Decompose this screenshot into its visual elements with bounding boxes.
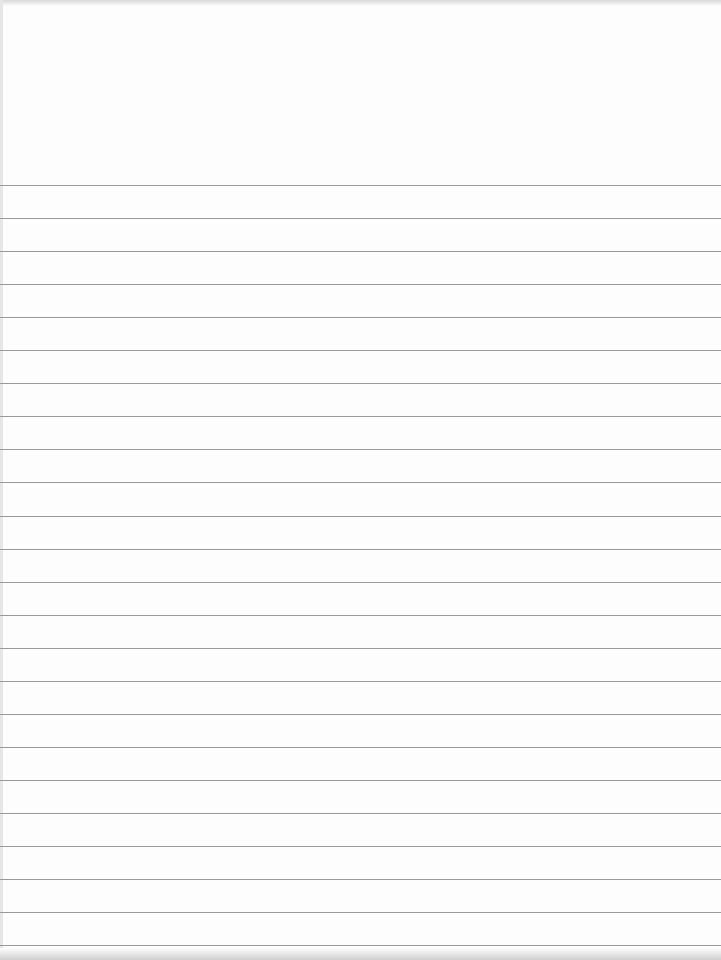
ruled-line (0, 482, 721, 483)
ruled-line (0, 317, 721, 318)
ruled-line (0, 251, 721, 252)
ruled-line (0, 549, 721, 550)
ruled-line (0, 582, 721, 583)
ruled-line (0, 813, 721, 814)
ruled-line (0, 350, 721, 351)
ruled-line (0, 218, 721, 219)
ruled-line (0, 879, 721, 880)
scan-edge-bottom (0, 948, 721, 960)
ruled-line (0, 714, 721, 715)
ruled-line (0, 945, 721, 946)
ruled-line (0, 780, 721, 781)
ruled-line (0, 615, 721, 616)
ruled-line (0, 383, 721, 384)
ruled-line (0, 416, 721, 417)
ruled-line (0, 681, 721, 682)
ruled-line (0, 846, 721, 847)
ruled-line (0, 912, 721, 913)
ruled-line (0, 747, 721, 748)
ruled-line (0, 449, 721, 450)
ruled-line (0, 648, 721, 649)
ruled-line (0, 185, 721, 186)
scan-edge-left (0, 0, 3, 960)
scan-edge-top (0, 0, 721, 6)
ruled-line (0, 284, 721, 285)
ruled-line (0, 516, 721, 517)
